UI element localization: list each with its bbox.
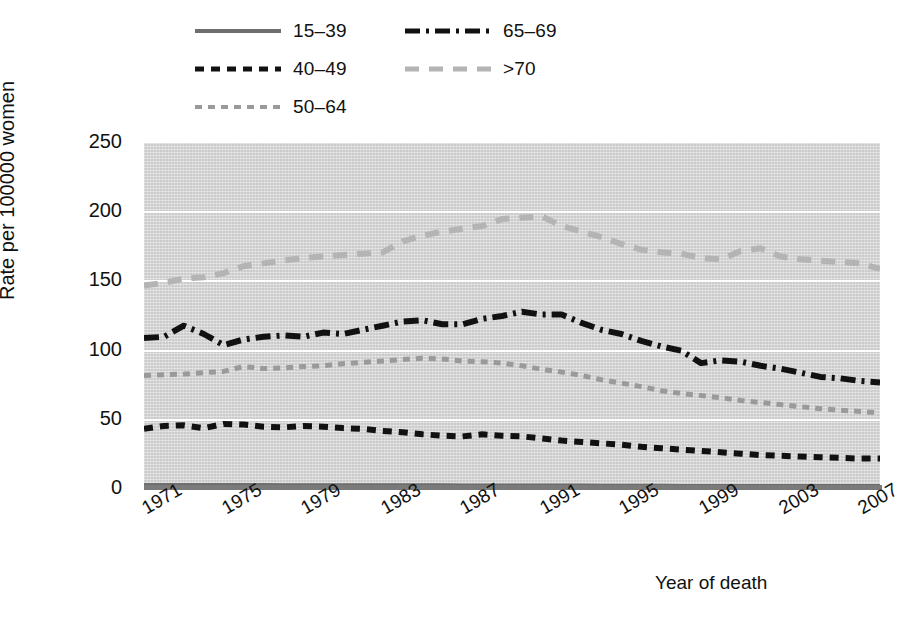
- series-line: [144, 216, 880, 285]
- series-lines: [144, 143, 880, 489]
- y-tick-label: 100: [0, 338, 122, 361]
- y-tick-label: 0: [0, 476, 122, 499]
- series-line: [144, 312, 880, 383]
- series-line: [144, 358, 880, 413]
- plot-area: [144, 143, 880, 489]
- y-tick-label: 250: [0, 130, 122, 153]
- y-axis-label: Rate per 100000 women: [0, 81, 19, 300]
- x-axis-label: Year of death: [655, 572, 767, 594]
- y-tick-label: 150: [0, 268, 122, 291]
- plot-area-wrapper: Rate per 100000 women 050100150200250 19…: [0, 0, 904, 625]
- figure: 15–39 65–69 40–49 >70: [0, 0, 904, 625]
- y-tick-label: 50: [0, 407, 122, 430]
- y-tick-label: 200: [0, 199, 122, 222]
- series-line: [144, 424, 880, 459]
